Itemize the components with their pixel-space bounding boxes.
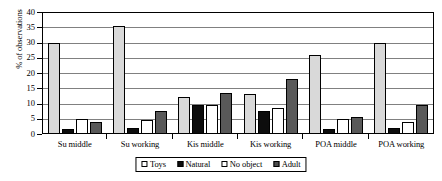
bar-toys (309, 55, 321, 134)
bar-toys (113, 26, 125, 134)
y-tick-label: 20 (27, 69, 36, 77)
x-label-4: POA middle (303, 139, 368, 149)
legend-item: No object (221, 159, 262, 169)
bar-adult (416, 105, 428, 134)
x-label-5: POA working (369, 139, 434, 149)
bar-noobject (206, 105, 218, 134)
bar-groups (42, 12, 434, 134)
legend-item: Natural (177, 159, 210, 169)
x-label-3: Kis working (238, 139, 303, 149)
bar-adult (286, 79, 298, 134)
y-tick-label: 15 (27, 84, 36, 92)
legend-label: Natural (185, 159, 210, 169)
bar-group (303, 12, 368, 134)
bar-noobject (141, 120, 153, 134)
legend-label: No object (230, 159, 262, 169)
y-tick-label: 40 (27, 8, 36, 16)
bar-noobject (402, 122, 414, 134)
x-label-2: Kis middle (173, 139, 238, 149)
bar-toys (244, 94, 256, 134)
y-tick-label: 0 (31, 130, 35, 138)
y-tick-label: 25 (27, 53, 36, 61)
bar-group (173, 12, 238, 134)
y-tick-label: 10 (27, 99, 36, 107)
legend-swatch-icon (141, 161, 147, 167)
y-tick-label: 30 (27, 38, 36, 46)
bar-natural (388, 128, 400, 134)
legend-swatch-icon (177, 161, 183, 167)
bar-natural (127, 128, 139, 134)
bar-toys (48, 43, 60, 135)
bar-natural (192, 105, 204, 134)
bar-adult (90, 122, 102, 134)
x-label-0: Su middle (42, 139, 107, 149)
bar-group (107, 12, 172, 134)
bar-group (238, 12, 303, 134)
y-tick-label: 5 (31, 114, 35, 122)
bar-natural (62, 129, 74, 134)
legend-label: Adult (282, 159, 301, 169)
bar-adult (351, 117, 363, 134)
bar-adult (220, 93, 232, 134)
bar-chart: % of observations 4035302520151050 Su mi… (0, 0, 442, 181)
bar-adult (155, 111, 167, 134)
bar-group (369, 12, 434, 134)
legend-swatch-icon (221, 161, 227, 167)
bar-noobject (272, 108, 284, 134)
x-axis-labels: Su middleSu workingKis middleKis working… (42, 139, 434, 149)
y-axis-ticks: 4035302520151050 (0, 0, 42, 181)
bar-natural (258, 111, 270, 134)
legend-item: Toys (141, 159, 166, 169)
bar-natural (323, 129, 335, 134)
x-label-1: Su working (107, 139, 172, 149)
bar-group (42, 12, 107, 134)
y-tick-label: 35 (27, 23, 36, 31)
legend-label: Toys (150, 159, 166, 169)
legend-item: Adult (273, 159, 300, 169)
bar-noobject (337, 119, 349, 134)
bar-toys (374, 43, 386, 135)
chart-legend: ToysNaturalNo objectAdult (135, 157, 306, 172)
y-tick-mark (37, 134, 42, 135)
legend-swatch-icon (273, 161, 279, 167)
bar-noobject (76, 119, 88, 134)
bar-toys (178, 97, 190, 134)
